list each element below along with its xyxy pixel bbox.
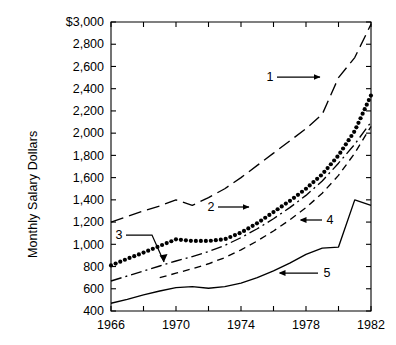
- x-tick-label: 1974: [227, 318, 255, 332]
- y-tick-label: 600: [83, 282, 104, 296]
- y-tick-label: 1,400: [73, 193, 104, 207]
- y-tick-label: 800: [83, 260, 104, 274]
- x-tick-label: 1982: [357, 318, 385, 332]
- chart-plot: 4006008001,0001,2001,4001,6001,8002,0002…: [0, 0, 396, 345]
- callout-label-4: 4: [327, 213, 334, 227]
- y-tick-label: 1,200: [73, 215, 104, 229]
- callout-label-3: 3: [116, 228, 123, 242]
- y-tick-label: 400: [83, 304, 104, 318]
- y-axis-tick-labels: 4006008001,0001,2001,4001,6001,8002,0002…: [66, 15, 104, 318]
- y-axis-ticks: [111, 22, 371, 311]
- series-1: [111, 24, 371, 222]
- chart-figure: Monthly Salary Dollars 4006008001,0001,2…: [0, 0, 396, 345]
- series-3: [111, 122, 371, 281]
- callout-leader-3: [126, 235, 164, 262]
- x-axis-ticks: [111, 22, 371, 311]
- series-2: [109, 93, 373, 267]
- callout-label-5: 5: [324, 266, 331, 280]
- x-tick-label: 1970: [162, 318, 190, 332]
- y-tick-label: 2,800: [73, 37, 104, 51]
- series-lines: [109, 24, 373, 303]
- x-tick-label: 1978: [292, 318, 320, 332]
- callout-label-1: 1: [267, 70, 274, 84]
- x-tick-label: 1966: [97, 318, 125, 332]
- y-tick-label: 2,600: [73, 60, 104, 74]
- y-tick-label: 2,400: [73, 82, 104, 96]
- y-tick-label: 1,800: [73, 149, 104, 163]
- y-tick-label: 1,000: [73, 238, 104, 252]
- x-axis-tick-labels: 19661970197419781982: [97, 318, 385, 332]
- y-tick-label: $3,000: [66, 15, 104, 29]
- plot-frame: [111, 22, 371, 311]
- callout-label-2: 2: [208, 200, 215, 214]
- y-tick-label: 1,600: [73, 171, 104, 185]
- y-tick-label: 2,200: [73, 104, 104, 118]
- series-callouts: 12345: [116, 70, 334, 280]
- series-4: [160, 126, 371, 277]
- y-tick-label: 2,000: [73, 126, 104, 140]
